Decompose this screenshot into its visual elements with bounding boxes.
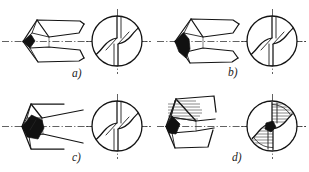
panel-label-a: a) (72, 67, 82, 80)
panel-label-d: d) (232, 151, 242, 164)
technical-figure: a) (0, 0, 309, 172)
panel-label-b: b) (228, 66, 238, 79)
drill-wear-diagram: a) (0, 0, 309, 172)
panel-label-c: c) (72, 151, 81, 164)
